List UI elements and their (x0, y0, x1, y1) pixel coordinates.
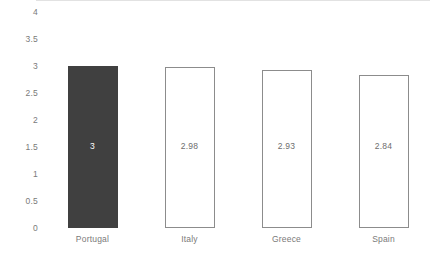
bar-chart: 00.511.522.533.54 3Portugal2.98Italy2.93… (0, 0, 432, 259)
x-category-label: Spain (335, 234, 432, 244)
bar-slot: 3 (44, 66, 141, 228)
bar-value-label: 2.93 (263, 141, 311, 151)
bar-slot: 2.98 (141, 67, 238, 228)
y-axis: 00.511.522.533.54 (0, 0, 44, 259)
plot-area: 3Portugal2.98Italy2.93Greece2.84Spain (44, 0, 432, 259)
axis-baseline (36, 0, 430, 1)
bar-greece[interactable]: 2.93 (262, 70, 312, 228)
bar-value-label: 3 (69, 141, 117, 151)
y-tick-label: 3 (33, 61, 38, 71)
y-tick-label: 0 (33, 223, 38, 233)
y-tick-label: 0.5 (26, 196, 38, 206)
y-tick-label: 2 (33, 115, 38, 125)
bar-italy[interactable]: 2.98 (165, 67, 215, 228)
bar-slot: 2.84 (335, 75, 432, 228)
bar-value-label: 2.98 (166, 141, 214, 151)
y-tick-label: 3.5 (26, 34, 38, 44)
y-tick-label: 4 (33, 7, 38, 17)
y-tick-label: 1.5 (26, 142, 38, 152)
x-category-label: Greece (238, 234, 335, 244)
y-tick-label: 1 (33, 169, 38, 179)
x-category-label: Italy (141, 234, 238, 244)
bar-value-label: 2.84 (360, 141, 408, 151)
bar-spain[interactable]: 2.84 (359, 75, 409, 228)
bar-portugal[interactable]: 3 (68, 66, 118, 228)
y-tick-label: 2.5 (26, 88, 38, 98)
x-category-label: Portugal (44, 234, 141, 244)
bar-slot: 2.93 (238, 70, 335, 228)
